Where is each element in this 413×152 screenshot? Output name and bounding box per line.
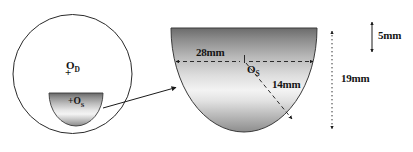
source-center-label-magnified: OS (247, 64, 260, 78)
figure-root: OD + +OS 28mm OS 14mm 5mm 19mm (0, 0, 413, 152)
detector-center-marker: + (65, 67, 71, 78)
radius-dimension-label: 14mm (272, 79, 301, 90)
diameter-dimension-label: 28mm (196, 47, 225, 58)
source-center-label-small: +OS (68, 97, 84, 108)
magnification-connector-line (103, 88, 176, 109)
total-height-dimension-label: 19mm (341, 73, 370, 84)
height-offset-dimension-label: 5mm (378, 30, 401, 41)
